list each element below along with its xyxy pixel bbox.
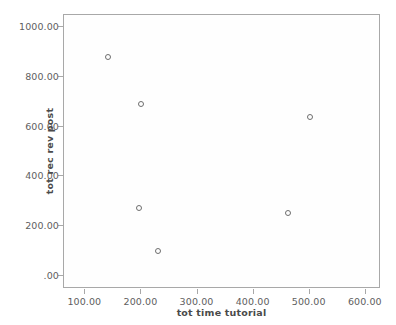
x-tick-mark	[140, 289, 141, 294]
x-tick-mark	[197, 289, 198, 294]
x-axis-title: tot time tutorial	[63, 307, 380, 318]
y-tick-label: .00	[44, 270, 59, 281]
x-tick-mark	[365, 289, 366, 294]
plot-frame	[63, 14, 380, 288]
x-tick-label: 600.00	[348, 296, 382, 307]
x-tick-mark	[84, 289, 85, 294]
y-tick-label: 800.00	[25, 70, 59, 81]
data-point	[155, 248, 161, 254]
x-tick-mark	[309, 289, 310, 294]
x-tick-label: 400.00	[236, 296, 270, 307]
x-tick-mark	[253, 289, 254, 294]
x-tick-label: 300.00	[180, 296, 214, 307]
x-tick-label: 200.00	[124, 296, 158, 307]
data-point	[136, 205, 142, 211]
y-tick-label: 1000.00	[19, 20, 59, 31]
scatter-plot-figure: 1000.00800.00600.00400.00200.00.00 100.0…	[0, 0, 396, 325]
data-point	[285, 210, 291, 216]
plot-area	[64, 15, 379, 287]
y-axis-title: tot rec rev post	[44, 108, 55, 194]
x-tick-label: 500.00	[292, 296, 326, 307]
data-point	[138, 101, 144, 107]
x-tick-label: 100.00	[67, 296, 101, 307]
data-point	[105, 54, 111, 60]
data-point	[307, 114, 313, 120]
y-tick-label: 200.00	[25, 220, 59, 231]
